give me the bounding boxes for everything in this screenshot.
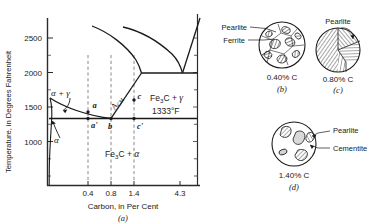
y-axis-label: Temperature, in Degrees Fahrenheit xyxy=(4,50,13,173)
point-c xyxy=(132,98,135,101)
point-label-a: a xyxy=(93,100,98,110)
phase-diagram-svg: Temperature, in Degrees Fahrenheit 2500 … xyxy=(0,0,210,224)
micrograph-c-panel: Pearlite 0.80% C (c) xyxy=(302,10,380,94)
region-label-fe3c-alpha: Fe3C + α xyxy=(105,149,140,160)
micrograph-c-label-pearlite: Pearlite xyxy=(325,17,350,26)
micrograph-d-circle xyxy=(272,122,316,166)
region-label-alpha: α xyxy=(54,135,59,145)
point-label-c: c xyxy=(138,91,142,101)
liquidus-right xyxy=(123,27,183,73)
micrograph-d-panel: Pearlite Cementite 1.40% C (d) xyxy=(252,112,380,202)
figure-root: Temperature, in Degrees Fahrenheit 2500 … xyxy=(0,0,381,224)
pearlite-colonies xyxy=(316,28,364,74)
right-axis-ticks xyxy=(193,38,198,176)
micrograph-c-svg: Pearlite 0.80% C (c) xyxy=(302,10,380,94)
point-label-b: b xyxy=(108,121,112,131)
micrograph-b-composition: 0.40% C xyxy=(267,73,298,82)
region-label-alpha-gamma: α + γ xyxy=(51,88,70,98)
leader-alpha-gamma xyxy=(63,98,70,111)
y-tick-label-1000: 1000 xyxy=(24,138,42,147)
y-tick-label-2000: 2000 xyxy=(24,69,42,78)
x-tick-label-4-3: 4.3 xyxy=(174,189,186,198)
eutectoid-temperature-label: 1333°F xyxy=(152,106,180,116)
micrograph-d-label-pearlite: Pearlite xyxy=(333,126,358,135)
micrograph-d-label-cementite: Cementite xyxy=(333,144,367,153)
y-tick-label-2500: 2500 xyxy=(24,34,42,43)
micrograph-d-composition: 1.40% C xyxy=(279,171,310,180)
y-tick-label-1500: 1500 xyxy=(24,103,42,112)
liquidus-left xyxy=(92,26,142,73)
point-a-prime xyxy=(86,117,89,120)
acm-curve-label: ACM xyxy=(108,94,125,113)
leader-arrowheads xyxy=(51,109,67,124)
x-tick-label-0-8: 0.8 xyxy=(105,189,117,198)
point-label-c-prime: c' xyxy=(137,121,144,131)
micrograph-d-svg: Pearlite Cementite 1.40% C (d) xyxy=(252,112,380,202)
x-axis-label: Carbon, in Per Cent xyxy=(88,202,159,211)
phase-diagram-panel: Temperature, in Degrees Fahrenheit 2500 … xyxy=(0,0,210,224)
region-label-fe3c-gamma: Fe3C + γ xyxy=(150,93,183,104)
micrograph-b-label-pearlite: Pearlite xyxy=(222,23,247,32)
micrograph-c-composition: 0.80% C xyxy=(323,75,354,84)
point-a xyxy=(86,110,89,113)
micrograph-b-label-ferrite: Ferrite xyxy=(223,36,245,45)
point-c-prime xyxy=(132,117,135,120)
a3-line xyxy=(50,98,111,118)
x-tick-label-1-4: 1.4 xyxy=(128,189,140,198)
caption-a: (a) xyxy=(118,213,128,223)
point-label-a-prime: a' xyxy=(91,120,98,130)
x-tick-label-0-4: 0.4 xyxy=(82,189,94,198)
caption-b: (b) xyxy=(277,84,287,94)
caption-c: (c) xyxy=(333,85,343,94)
caption-d: (d) xyxy=(289,182,299,192)
